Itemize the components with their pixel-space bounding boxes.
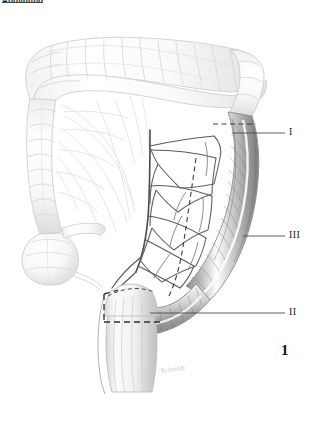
cecum — [22, 233, 78, 285]
descending-colon — [186, 112, 259, 300]
label-level-2: II — [289, 307, 296, 317]
appendix — [74, 272, 102, 290]
inferior-mesenteric-artery — [136, 130, 150, 272]
figure-number: 1 — [281, 343, 289, 358]
terminal-ileum — [62, 223, 105, 238]
superior-mesenteric-vessels — [56, 96, 149, 238]
figure-container: Abbildung — [0, 0, 315, 433]
label-level-3: III — [289, 230, 300, 240]
label-level-1: I — [289, 127, 293, 137]
ascending-colon — [27, 98, 62, 234]
resection-line-III — [168, 158, 196, 298]
transverse-colon — [26, 37, 267, 107]
